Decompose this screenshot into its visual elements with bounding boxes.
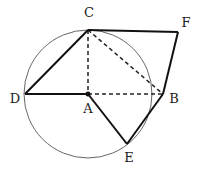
center-point-a bbox=[86, 92, 91, 97]
segment-ae bbox=[88, 94, 127, 144]
geometry-diagram: C F D A B E bbox=[0, 0, 198, 174]
segment-bf bbox=[163, 32, 178, 94]
segment-eb bbox=[127, 94, 163, 144]
segment-dc bbox=[25, 30, 88, 94]
segment-cb-dashed bbox=[88, 30, 163, 94]
label-d: D bbox=[10, 91, 20, 106]
label-c: C bbox=[84, 5, 94, 20]
label-f: F bbox=[181, 15, 190, 30]
label-a: A bbox=[82, 101, 93, 116]
label-b: B bbox=[169, 91, 179, 106]
label-e: E bbox=[124, 150, 134, 165]
